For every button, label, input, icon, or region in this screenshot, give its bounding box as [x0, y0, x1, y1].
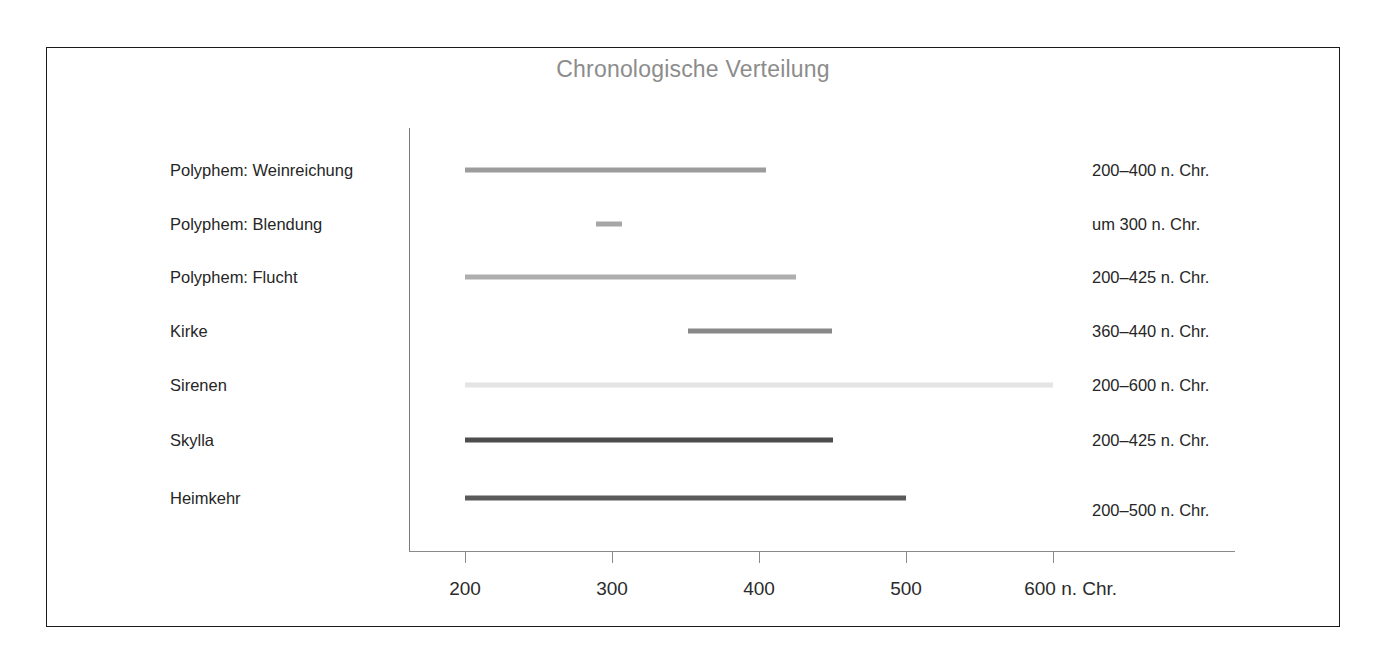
- tick-label-300: 300: [596, 578, 628, 600]
- range-bar: [465, 383, 1053, 388]
- figure-page: Chronologische Verteilung 20030040050060…: [0, 0, 1386, 669]
- range-bar: [465, 438, 833, 443]
- y-axis-line: [409, 128, 410, 552]
- range-annotation: 360–440 n. Chr.: [1092, 322, 1209, 341]
- range-bar: [465, 496, 906, 501]
- category-label: Sirenen: [170, 376, 227, 395]
- plot-area: 200300400500600 n. Chr. Polyphem: Weinre…: [0, 0, 1386, 669]
- tick-mark-400: [759, 552, 760, 563]
- range-annotation: 200–425 n. Chr.: [1092, 431, 1209, 450]
- category-label: Polyphem: Blendung: [170, 215, 322, 234]
- range-bar: [465, 275, 796, 280]
- tick-label-400: 400: [743, 578, 775, 600]
- range-annotation: 200–400 n. Chr.: [1092, 161, 1209, 180]
- category-label: Polyphem: Flucht: [170, 268, 297, 287]
- category-label: Kirke: [170, 322, 208, 341]
- range-annotation: 200–425 n. Chr.: [1092, 268, 1209, 287]
- tick-mark-300: [612, 552, 613, 563]
- tick-mark-500: [906, 552, 907, 563]
- tick-label-500: 500: [890, 578, 922, 600]
- x-axis-line: [409, 551, 1235, 552]
- tick-mark-200: [465, 552, 466, 563]
- tick-label-600: 600 n. Chr.: [1024, 578, 1117, 600]
- range-bar: [465, 168, 766, 173]
- tick-label-200: 200: [449, 578, 481, 600]
- range-annotation: um 300 n. Chr.: [1092, 215, 1200, 234]
- category-label: Heimkehr: [170, 489, 241, 508]
- category-label: Skylla: [170, 431, 214, 450]
- range-annotation: 200–500 n. Chr.: [1092, 501, 1209, 520]
- category-label: Polyphem: Weinreichung: [170, 161, 353, 180]
- range-annotation: 200–600 n. Chr.: [1092, 376, 1209, 395]
- range-bar: [596, 222, 622, 227]
- range-bar: [688, 329, 832, 334]
- tick-mark-600: [1053, 552, 1054, 563]
